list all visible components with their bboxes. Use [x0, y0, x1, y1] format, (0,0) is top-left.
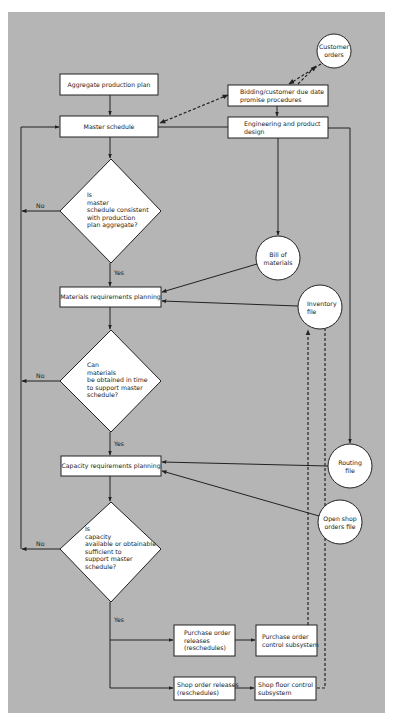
- label-line: file: [331, 467, 369, 475]
- label-line: Engineering and product: [244, 120, 321, 128]
- label-line: schedule?: [87, 391, 148, 399]
- label-line: control subsystem: [262, 641, 319, 649]
- label-line: Shop order releases: [177, 681, 239, 689]
- label-open-shop-orders: Open shop orders file: [318, 515, 362, 530]
- label-purchase-releases: Purchase order releases (reschedules): [184, 629, 231, 652]
- label-line: materials: [87, 369, 148, 377]
- label-no-3: No: [36, 540, 44, 548]
- label-line: Bidding/customer due date: [240, 88, 324, 96]
- label-line: Purchase order: [184, 629, 231, 637]
- label-bidding: Bidding/customer due date promise proced…: [240, 88, 324, 103]
- label-line: Shop floor control: [258, 681, 313, 689]
- label-decision1: Is master schedule consistent with produ…: [87, 191, 149, 229]
- label-line: orders: [317, 51, 351, 59]
- label-no-2: No: [36, 372, 44, 380]
- label-line: be obtained in time: [87, 376, 148, 384]
- label-decision2: Can materials be obtained in time to sup…: [87, 361, 148, 399]
- label-line: schedule consistent: [87, 206, 149, 214]
- label-line: schedule?: [85, 563, 156, 571]
- label-line: Inventory: [307, 300, 337, 308]
- label-engineering: Engineering and product design: [244, 120, 321, 135]
- label-line: Can: [87, 361, 148, 369]
- label-line: support master: [85, 555, 156, 563]
- label-yes-2: Yes: [114, 440, 124, 448]
- label-yes-3: Yes: [114, 616, 124, 624]
- label-line: Customer: [317, 43, 351, 51]
- label-bill-of-materials: Bill of materials: [258, 251, 298, 266]
- label-line: materials: [258, 259, 298, 267]
- label-line: (reschedules): [177, 689, 239, 697]
- label-inventory-file: Inventory file: [307, 300, 337, 315]
- label-mrp: Materials requirements planning: [60, 293, 161, 301]
- label-line: design: [244, 128, 321, 136]
- label-line: promise procedures: [240, 96, 324, 104]
- label-line: master: [87, 199, 149, 207]
- label-purchase-control: Purchase order control subsystem: [262, 633, 319, 648]
- label-line: plan aggregate?: [87, 221, 149, 229]
- label-crp: Capacity requirements planning: [61, 462, 161, 470]
- label-line: available or obtainable: [85, 540, 156, 548]
- label-line: sufficient to: [85, 548, 156, 556]
- label-line: capacity: [85, 533, 156, 541]
- label-line: subsystem: [258, 689, 313, 697]
- label-line: Is: [85, 525, 156, 533]
- label-line: (reschedules): [184, 644, 231, 652]
- label-shop-floor-control: Shop floor control subsystem: [258, 681, 313, 696]
- label-routing-file: Routing file: [331, 459, 369, 474]
- label-line: with production: [87, 214, 149, 222]
- label-no-1: No: [36, 202, 44, 210]
- flowchart: [0, 0, 393, 725]
- label-customer-orders: Customer orders: [317, 43, 351, 58]
- label-decision3: Is capacity available or obtainable suff…: [85, 525, 156, 571]
- label-line: Open shop: [318, 515, 362, 523]
- label-shop-releases: Shop order releases (reschedules): [177, 681, 239, 696]
- label-yes-1: Yes: [114, 269, 124, 277]
- label-line: Routing: [331, 459, 369, 467]
- label-line: Bill of: [258, 251, 298, 259]
- label-line: Purchase order: [262, 633, 319, 641]
- label-master-schedule: Master schedule: [60, 123, 158, 131]
- label-aggregate-plan: Aggregate production plan: [60, 81, 158, 89]
- label-line: releases: [184, 637, 231, 645]
- label-line: to support master: [87, 384, 148, 392]
- label-line: file: [307, 308, 337, 316]
- label-line: Is: [87, 191, 149, 199]
- label-line: orders file: [318, 523, 362, 531]
